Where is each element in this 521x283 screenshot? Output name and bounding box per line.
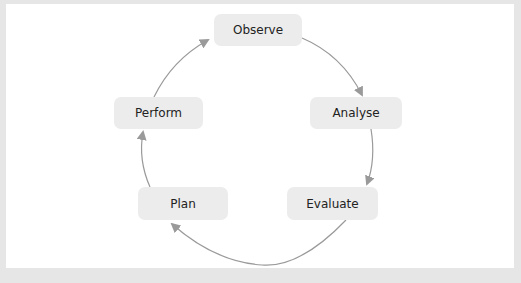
arrow-analyse-to-evaluate	[367, 129, 373, 184]
node-plan: Plan	[138, 187, 228, 220]
node-observe: Observe	[214, 14, 302, 46]
node-perform-label: Perform	[135, 106, 182, 120]
node-evaluate: Evaluate	[287, 187, 378, 220]
arrow-observe-to-analyse	[302, 38, 362, 95]
arrow-evaluate-to-plan	[172, 220, 346, 265]
node-perform: Perform	[114, 97, 203, 129]
arrow-plan-to-perform	[142, 132, 150, 187]
node-observe-label: Observe	[233, 23, 283, 37]
node-evaluate-label: Evaluate	[306, 197, 358, 211]
arrow-perform-to-observe	[154, 40, 208, 97]
node-analyse-label: Analyse	[332, 106, 379, 120]
node-analyse: Analyse	[310, 97, 402, 129]
node-plan-label: Plan	[170, 197, 196, 211]
